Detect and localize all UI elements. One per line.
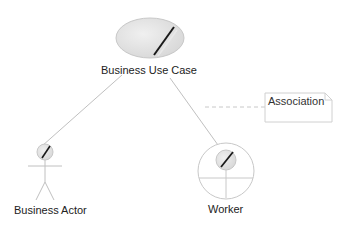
business-use-case-icon[interactable]	[116, 18, 184, 58]
worker-icon[interactable]	[198, 143, 254, 199]
business-actor-label: Business Actor	[14, 204, 87, 216]
note-text: Association	[268, 95, 324, 107]
association-line-actor[interactable]	[42, 75, 122, 146]
business-use-case-label: Business Use Case	[101, 64, 197, 76]
worker-label: Worker	[208, 203, 243, 215]
business-actor-icon[interactable]	[28, 144, 62, 200]
diagram-canvas	[0, 0, 355, 237]
